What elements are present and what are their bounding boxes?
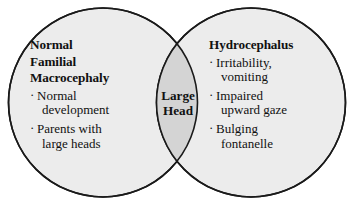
left-bullet-list: · Normal development · Parents with larg…: [30, 89, 142, 151]
right-bullet-1-line-1: Irritability,: [216, 56, 337, 71]
bullet-marker-icon: ·: [30, 121, 34, 136]
right-bullet-2-line-2: upward gaze: [216, 103, 337, 118]
list-item: · Normal development: [30, 89, 142, 118]
bullet-marker-icon: ·: [209, 88, 213, 103]
venn-region-right: Hydrocephalus · Irritability, vomiting ·…: [209, 38, 337, 151]
left-heading-line-3: Macrocephaly: [30, 71, 142, 86]
left-bullet-2-line-1: Parents with: [37, 122, 142, 137]
venn-diagram: Normal Familial Macrocephaly · Normal de…: [0, 0, 354, 215]
left-heading-line-1: Normal: [30, 38, 142, 53]
left-bullet-1-line-2: development: [37, 103, 142, 118]
bullet-marker-icon: ·: [209, 55, 213, 70]
list-item: · Impaired upward gaze: [209, 89, 337, 118]
right-bullet-3-line-1: Bulging: [216, 122, 337, 137]
left-bullet-1-line-1: Normal: [37, 89, 142, 104]
left-bullet-2-line-2: large heads: [37, 137, 142, 152]
left-heading-line-2: Familial: [30, 55, 142, 70]
bullet-marker-icon: ·: [209, 121, 213, 136]
venn-region-center: Large Head: [152, 88, 204, 118]
list-item: · Parents with large heads: [30, 122, 142, 151]
center-label-line-1: Large: [152, 88, 204, 103]
venn-region-left: Normal Familial Macrocephaly · Normal de…: [30, 38, 142, 151]
list-item: · Irritability, vomiting: [209, 56, 337, 85]
right-bullet-2-line-1: Impaired: [216, 89, 337, 104]
right-bullet-list: · Irritability, vomiting · Impaired upwa…: [209, 56, 337, 152]
bullet-marker-icon: ·: [30, 88, 34, 103]
right-bullet-3-line-2: fontanelle: [216, 137, 337, 152]
list-item: · Bulging fontanelle: [209, 122, 337, 151]
right-heading-line-1: Hydrocephalus: [209, 38, 337, 53]
venn-text-layer: Normal Familial Macrocephaly · Normal de…: [0, 0, 354, 215]
right-bullet-1-line-2: vomiting: [216, 70, 337, 85]
center-label-line-2: Head: [152, 103, 204, 118]
